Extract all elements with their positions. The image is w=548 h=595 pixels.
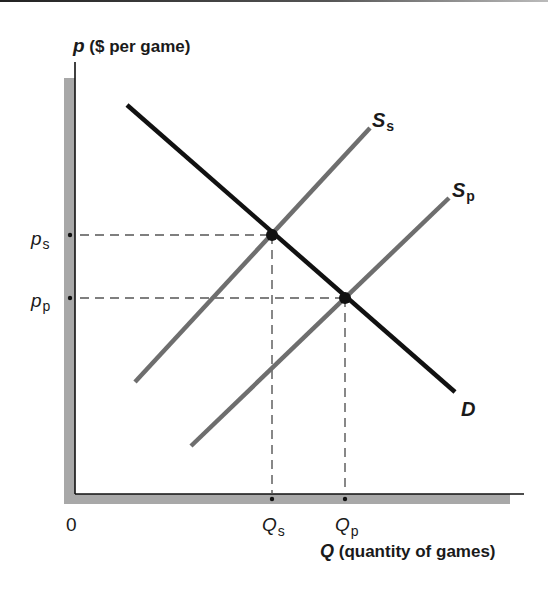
label-supply-s: Ss xyxy=(372,109,394,134)
x-axis-units: (quantity of games) xyxy=(334,542,496,561)
x-axis-title: Q (quantity of games) xyxy=(320,541,496,561)
supply-demand-chart: p ($ per game) Q (quantity of games) 0 p… xyxy=(0,0,548,595)
equilibrium-point-s xyxy=(266,229,278,241)
y-axis-var: p xyxy=(72,35,85,56)
y-axis-shadow xyxy=(64,78,75,504)
x-axis-var: Q xyxy=(320,541,334,561)
label-demand: D xyxy=(461,398,475,420)
tick-dot-qs xyxy=(270,497,274,501)
tick-dot-ps xyxy=(68,233,72,237)
x-tick-qp: Qp xyxy=(335,514,359,539)
y-axis-units: ($ per game) xyxy=(85,37,191,56)
label-supply-p: Sp xyxy=(452,179,475,204)
tick-dot-qp xyxy=(343,497,347,501)
y-axis-title: p ($ per game) xyxy=(72,35,190,56)
supply-curve-s xyxy=(135,128,370,382)
origin-label: 0 xyxy=(66,514,77,535)
y-tick-pp: pp xyxy=(30,290,51,314)
x-axis-shadow xyxy=(64,494,510,504)
equilibrium-point-p xyxy=(339,292,351,304)
tick-dot-pp xyxy=(68,296,72,300)
x-tick-qs: Qs xyxy=(262,514,285,539)
y-tick-ps: ps xyxy=(30,228,50,252)
supply-curve-p xyxy=(191,198,449,446)
